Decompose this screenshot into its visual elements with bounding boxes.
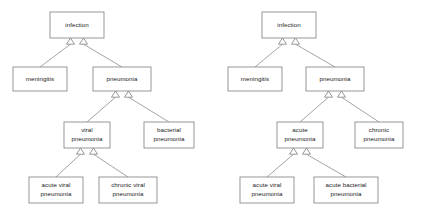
node-label: chronic: [369, 126, 389, 133]
edge-r-pneumonia-to-r-infection: [292, 38, 336, 67]
edge-l-acute-viral-to-l-viral-pneumonia: [56, 148, 85, 177]
generalization-arrowhead: [325, 91, 333, 97]
edge-r-chronic-pneumonia-to-r-pneumonia: [338, 91, 380, 122]
generalization-edge: [129, 97, 170, 122]
edge-l-bacterial-pneumonia-to-l-pneumonia: [125, 91, 170, 122]
node-l-bacterial-pneumonia[interactable]: bacterialpneumonia: [144, 122, 194, 148]
node-label: acute: [292, 126, 308, 133]
uml-diagram-pair: infectionmeningitispneumoniaviralpneumon…: [0, 0, 422, 217]
node-label: pneumonia: [40, 190, 72, 197]
generalization-arrowhead: [290, 148, 298, 154]
node-r-acute-bacterial[interactable]: acute bacterialpneumonia: [314, 177, 378, 203]
node-label: pneumonia: [153, 135, 185, 142]
node-label: pneumonia: [71, 135, 103, 142]
node-r-infection[interactable]: infection: [262, 12, 316, 38]
generalization-edge: [87, 97, 116, 122]
acute-chronic-pneumonia-hierarchy-edges: [255, 38, 379, 177]
node-label: bacterial: [157, 126, 181, 133]
node-label: pneumonia: [106, 75, 138, 82]
generalization-edge: [267, 154, 294, 177]
generalization-edge: [94, 154, 129, 177]
edge-l-viral-pneumonia-to-l-pneumonia: [87, 91, 120, 122]
node-r-acute-viral[interactable]: acute viralpneumonia: [240, 177, 294, 203]
generalization-edge: [342, 97, 380, 122]
edge-r-acute-viral-to-r-acute-pneumonia: [267, 148, 298, 177]
generalization-arrowhead: [90, 148, 98, 154]
diagram-canvas: infectionmeningitispneumoniaviralpneumon…: [0, 0, 422, 217]
generalization-edge: [84, 44, 123, 67]
edge-r-acute-pneumonia-to-r-pneumonia: [300, 91, 333, 122]
node-l-chronic-viral[interactable]: chronic viralpneumonia: [99, 177, 157, 203]
edge-r-meningitis-to-r-infection: [255, 38, 287, 67]
viral-bacterial-pneumonia-hierarchy: infectionmeningitispneumoniaviralpneumon…: [13, 12, 194, 203]
node-l-acute-viral[interactable]: acute viralpneumonia: [29, 177, 83, 203]
node-label: pneumonia: [330, 190, 362, 197]
generalization-arrowhead: [279, 38, 287, 44]
generalization-arrowhead: [125, 91, 133, 97]
node-label: meningitis: [26, 75, 54, 82]
node-label: meningitis: [241, 75, 269, 82]
node-r-pneumonia[interactable]: pneumonia: [306, 67, 364, 91]
generalization-edge: [300, 97, 329, 122]
generalization-arrowhead: [67, 38, 75, 44]
generalization-arrowhead: [77, 148, 85, 154]
viral-bacterial-pneumonia-hierarchy-edges: [40, 38, 169, 177]
node-label: acute bacterial: [326, 181, 367, 188]
acute-chronic-pneumonia-hierarchy: infectionmeningitispneumoniaacutepneumon…: [228, 12, 403, 203]
edge-l-pneumonia-to-l-infection: [80, 38, 123, 67]
node-l-viral-pneumonia[interactable]: viralpneumonia: [64, 122, 110, 148]
generalization-edge: [56, 154, 81, 177]
node-label: pneumonia: [363, 135, 395, 142]
generalization-arrowhead: [338, 91, 346, 97]
node-label: viral: [81, 126, 93, 133]
node-label: acute viral: [42, 181, 71, 188]
generalization-edge: [307, 154, 347, 177]
generalization-edge: [296, 44, 336, 67]
generalization-arrowhead: [292, 38, 300, 44]
node-label: pneumonia: [284, 135, 316, 142]
generalization-arrowhead: [112, 91, 120, 97]
node-label: pneumonia: [112, 190, 144, 197]
node-l-infection[interactable]: infection: [50, 12, 104, 38]
node-label: pneumonia: [251, 190, 283, 197]
node-r-acute-pneumonia[interactable]: acutepneumonia: [277, 122, 323, 148]
generalization-arrowhead: [80, 38, 88, 44]
node-label: infection: [65, 21, 89, 28]
node-l-pneumonia[interactable]: pneumonia: [93, 67, 151, 91]
node-l-meningitis[interactable]: meningitis: [13, 67, 67, 91]
node-r-chronic-pneumonia[interactable]: chronicpneumonia: [355, 122, 403, 148]
edge-l-meningitis-to-l-infection: [40, 38, 75, 67]
node-r-meningitis[interactable]: meningitis: [228, 67, 282, 91]
generalization-arrowhead: [303, 148, 311, 154]
node-label: pneumonia: [319, 75, 351, 82]
edge-l-chronic-viral-to-l-viral-pneumonia: [90, 148, 129, 177]
node-label: acute viral: [253, 181, 282, 188]
node-label: chronic viral: [111, 181, 145, 188]
generalization-edge: [255, 44, 283, 67]
node-label: infection: [277, 21, 301, 28]
edge-r-acute-bacterial-to-r-acute-pneumonia: [303, 148, 347, 177]
generalization-edge: [40, 44, 71, 67]
